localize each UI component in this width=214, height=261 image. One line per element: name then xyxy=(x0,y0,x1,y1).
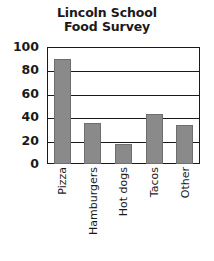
gridline xyxy=(48,71,199,72)
y-axis-tick-label: 60 xyxy=(22,88,39,100)
y-axis: 020406080100 xyxy=(0,47,44,164)
bar-chart-figure: Lincoln School Food Survey 020406080100 … xyxy=(0,0,214,261)
gridline xyxy=(48,95,199,96)
x-axis-tick: Other xyxy=(169,167,200,259)
x-axis-tick-label: Pizza xyxy=(57,167,68,195)
y-axis-tick-label: 80 xyxy=(22,64,39,76)
y-axis-tick-label: 100 xyxy=(13,41,39,53)
y-axis-tick-label: 20 xyxy=(22,135,39,147)
y-axis-tick-label: 40 xyxy=(22,111,39,123)
x-axis-tick: Tacos xyxy=(139,167,170,259)
x-axis-tick-label: Hot dogs xyxy=(118,167,129,216)
x-axis-tick: Hot dogs xyxy=(108,167,139,259)
chart-title-line-1: Lincoln School xyxy=(0,6,214,20)
gridline xyxy=(48,118,199,119)
x-axis-tick: Hamburgers xyxy=(78,167,109,259)
x-axis-tick-label: Other xyxy=(179,167,190,198)
plot-area xyxy=(47,47,200,164)
chart-title: Lincoln School Food Survey xyxy=(0,6,214,34)
x-axis-tick-label: Hamburgers xyxy=(87,167,98,235)
x-axis-tick: Pizza xyxy=(47,167,78,259)
y-axis-tick-label: 0 xyxy=(30,158,39,170)
gridline xyxy=(48,142,199,143)
x-axis: PizzaHamburgersHot dogsTacosOther xyxy=(47,167,200,259)
chart-title-line-2: Food Survey xyxy=(0,20,214,34)
x-axis-tick-label: Tacos xyxy=(149,167,160,197)
